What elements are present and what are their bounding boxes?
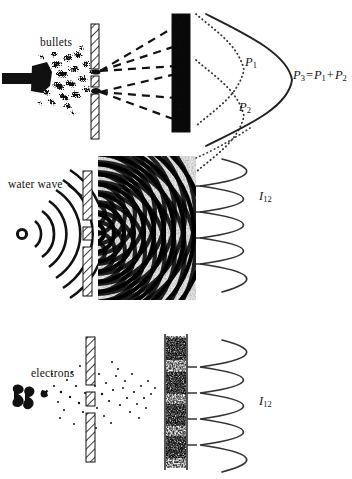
intensity-curve-electrons <box>200 340 247 472</box>
ripple-tank-interference-pattern <box>0 114 204 352</box>
detector-screen-bullets <box>172 14 190 132</box>
label-i12-electrons: I12 <box>259 395 272 408</box>
label-p1: P1 <box>245 56 257 69</box>
panel-water-wave <box>0 114 250 352</box>
intensity-curve-water <box>200 159 247 292</box>
electron-screen-leaders <box>187 367 197 445</box>
electron-gun <box>12 384 50 409</box>
equation-term2-subscript: 2 <box>343 73 347 83</box>
label-i12-water-subscript: 12 <box>263 194 272 204</box>
curve-p3 <box>206 14 292 146</box>
equation-plus: + <box>326 68 335 82</box>
equation-lhs-symbol: P <box>293 68 301 82</box>
water-screen-leaders <box>196 186 206 264</box>
label-water-wave: water wave <box>8 179 63 191</box>
two-slit-barrier-electrons <box>86 337 95 462</box>
equation-term1-symbol: P <box>314 68 322 82</box>
label-bullets: bullets <box>40 37 72 49</box>
label-p2-symbol: P <box>239 100 247 114</box>
label-electrons: electrons <box>31 368 74 380</box>
label-p2: P2 <box>239 101 251 114</box>
fringe-detector-screen <box>165 334 187 470</box>
label-i12-electrons-subscript: 12 <box>263 399 272 409</box>
equation-equals: = <box>305 68 314 82</box>
label-p1-symbol: P <box>245 55 253 69</box>
two-slit-barrier-bullets <box>91 24 99 139</box>
label-p2-subscript: 2 <box>247 105 251 115</box>
label-p1-subscript: 1 <box>253 60 257 70</box>
point-wave-source <box>17 229 26 238</box>
double-slit-figure: bullets water wave electrons P1 P2 P3=P1… <box>0 0 352 479</box>
bullet-trajectories-upper <box>100 26 176 71</box>
equation-term2-symbol: P <box>335 68 343 82</box>
two-slit-barrier-water <box>83 171 92 296</box>
equation-p3: P3=P1+P2 <box>293 69 347 82</box>
bullet-trajectories-lower <box>100 74 176 120</box>
panel-electrons <box>12 334 246 472</box>
panel-connector-dotted <box>196 128 250 158</box>
label-i12-water: I12 <box>259 190 272 203</box>
